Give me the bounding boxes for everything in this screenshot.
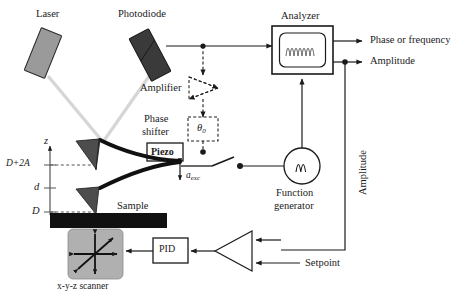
label-phase-shifter-line2: shifter	[142, 126, 169, 138]
photodiode-signal-wire	[166, 43, 272, 75]
label-output-phase: Phase or frequency	[370, 34, 450, 46]
label-setpoint: Setpoint	[305, 257, 340, 269]
optical-beam-path	[48, 72, 152, 142]
amplifier-symbol	[189, 77, 218, 117]
label-axis-z: z	[44, 135, 48, 147]
photodiode-body	[129, 29, 171, 82]
laser-body	[24, 28, 62, 79]
label-function-generator-line1: Function	[276, 187, 313, 199]
label-sample: Sample	[117, 200, 149, 212]
label-phase-shifter-line1: Phase	[144, 113, 169, 125]
label-axis-d-small: d	[34, 181, 39, 193]
switch-blade	[212, 157, 234, 166]
label-pid: PID	[159, 243, 175, 254]
excitation-switch	[181, 157, 234, 166]
label-feedback-amplitude: Amplitude	[357, 150, 369, 195]
tip-lower	[76, 187, 99, 214]
label-axis-d-plus-2a: D+2A	[6, 158, 30, 169]
label-theta-zero: θ0	[197, 122, 206, 135]
label-photodiode: Photodiode	[118, 8, 166, 20]
analyzer-screen	[280, 33, 326, 67]
function-generator-symbol	[237, 79, 320, 184]
label-axis-d-cap: D	[32, 205, 40, 217]
label-analyzer: Analyzer	[281, 10, 319, 22]
label-a-exc: aexc	[186, 170, 200, 182]
sample-bar	[50, 213, 167, 228]
xyz-scanner-body	[68, 229, 123, 279]
afm-block-diagram: Laser Photodiode Analyzer Amplifier Phas…	[0, 0, 462, 296]
analyzer-box	[272, 26, 333, 74]
label-amplifier: Amplifier	[140, 82, 181, 94]
comparator-symbol	[215, 231, 300, 271]
switch-contact-upper	[200, 149, 206, 155]
label-function-generator-line2: generator	[274, 200, 314, 212]
label-piezo: Piezo	[151, 146, 174, 157]
label-scanner: x-y-z scanner	[57, 281, 108, 292]
switch-contact-right	[237, 163, 243, 169]
label-laser: Laser	[36, 8, 59, 20]
label-output-amplitude: Amplitude	[370, 55, 415, 67]
laser-beam-incident	[48, 76, 103, 142]
